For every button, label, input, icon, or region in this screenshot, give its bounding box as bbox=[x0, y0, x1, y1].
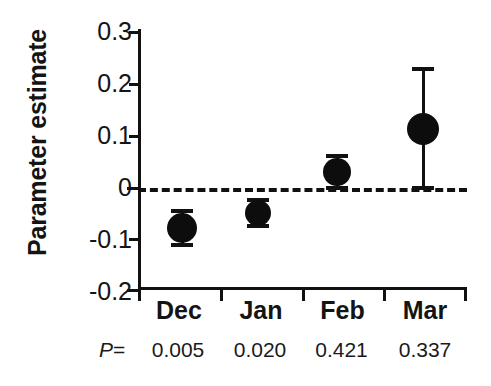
error-bar-cap-upper-mar bbox=[412, 67, 434, 71]
y-tick-label-0.1: 0.1 bbox=[60, 123, 132, 148]
p-equals-sign: = bbox=[113, 338, 125, 361]
y-tick-mark--0.1 bbox=[129, 238, 139, 241]
marker-feb bbox=[323, 158, 351, 186]
y-tick-label-0: 0 bbox=[60, 175, 132, 200]
p-value-feb: 0.421 bbox=[300, 338, 383, 362]
x-axis-label-jan: Jan bbox=[220, 296, 302, 325]
error-bar-cap-lower-feb bbox=[326, 186, 348, 190]
marker-jan bbox=[245, 200, 271, 226]
x-axis-label-feb: Feb bbox=[302, 296, 383, 325]
y-tick-mark-0.1 bbox=[129, 135, 139, 138]
y-axis-line bbox=[138, 29, 141, 292]
y-tick-mark-0.2 bbox=[129, 83, 139, 86]
y-tick-label-0.2: 0.2 bbox=[60, 71, 132, 96]
y-tick-label-0.3: 0.3 bbox=[60, 19, 132, 44]
x-axis-label-mar: Mar bbox=[383, 296, 467, 325]
y-axis-title: Parameter estimate bbox=[23, 13, 52, 273]
y-tick-label--0.1: -0.1 bbox=[60, 227, 132, 252]
marker-mar bbox=[407, 113, 439, 145]
p-value-prefix: P= bbox=[99, 338, 125, 362]
y-axis-tick-labels: 0.3 0.2 0.1 0 -0.1 -0.2 bbox=[52, 0, 132, 386]
p-value-dec: 0.005 bbox=[136, 338, 220, 362]
y-tick-mark-0.3 bbox=[129, 31, 139, 34]
parameter-estimate-chart: Parameter estimate 0.3 0.2 0.1 0 -0.1 -0… bbox=[0, 0, 491, 386]
marker-dec bbox=[167, 213, 197, 243]
y-tick-label--0.2: -0.2 bbox=[60, 279, 132, 304]
p-value-jan: 0.020 bbox=[218, 338, 302, 362]
p-value-mar: 0.337 bbox=[382, 338, 468, 362]
x-axis-label-dec: Dec bbox=[138, 296, 220, 325]
plot-area bbox=[138, 31, 467, 290]
p-symbol: P bbox=[99, 338, 113, 361]
error-bar-cap-lower-mar bbox=[412, 186, 434, 190]
error-bar-cap-lower-dec bbox=[171, 243, 193, 247]
